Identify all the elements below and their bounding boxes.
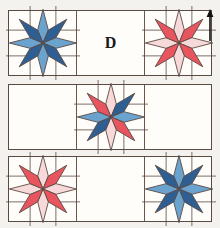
cell-3-1[interactable] <box>9 157 77 221</box>
star-container-red <box>6 152 80 226</box>
star-container-mixed <box>74 80 148 154</box>
cell-2-3[interactable] <box>145 85 213 149</box>
eight-point-star-mixed <box>74 80 148 154</box>
star-container-blue <box>6 6 80 80</box>
cell-1-2[interactable]: D <box>77 11 145 75</box>
cell-1-1[interactable] <box>9 11 77 75</box>
up-arrow-svg <box>205 8 215 42</box>
cell-2-1[interactable] <box>9 85 77 149</box>
block-label-d: D <box>77 35 144 51</box>
row-3 <box>8 156 212 222</box>
cell-2-2[interactable] <box>77 85 145 149</box>
eight-point-star-blue <box>6 6 80 80</box>
eight-point-star-blue <box>142 152 216 226</box>
cell-1-3[interactable] <box>145 11 213 75</box>
star-container-blue <box>142 152 216 226</box>
up-arrow-icon <box>205 8 215 42</box>
cell-3-2[interactable] <box>77 157 145 221</box>
row-2 <box>8 84 212 150</box>
cell-3-3[interactable] <box>145 157 213 221</box>
quilt-diagram: D <box>0 0 220 228</box>
eight-point-star-red <box>6 152 80 226</box>
row-1: D <box>8 10 212 76</box>
